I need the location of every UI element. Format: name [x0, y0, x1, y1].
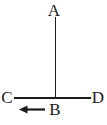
left-arrow-icon: [19, 105, 45, 114]
segment-ab-line: [55, 17, 56, 99]
point-label-c: C: [1, 89, 12, 106]
point-label-d: D: [92, 89, 104, 106]
geometry-figure: A C D B: [0, 0, 107, 125]
segment-cd-line: [14, 97, 91, 98]
point-label-b: B: [49, 101, 60, 118]
